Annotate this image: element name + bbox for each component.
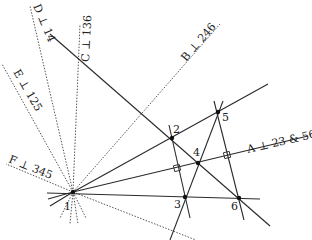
solid-line-1-3-6 xyxy=(47,193,260,199)
point-label-3: 3 xyxy=(174,198,181,211)
point-2 xyxy=(170,136,174,140)
line-label-B: B ⊥ 246 xyxy=(178,20,218,64)
point-1 xyxy=(71,190,75,194)
geometry-diagram: 123456 A ⊥ 23 & 56B ⊥ 246C ⊥ 136D ⊥ 14E … xyxy=(0,0,312,240)
line-label-F: F ⊥ 345 xyxy=(7,153,54,182)
line-label-E: E ⊥ 125 xyxy=(10,67,44,114)
line-label-C: C ⊥ 136 xyxy=(79,15,94,62)
line-label-D: D ⊥ 14 xyxy=(30,2,58,44)
point-4 xyxy=(196,161,200,165)
point-label-4: 4 xyxy=(193,146,200,159)
point-3 xyxy=(183,195,187,199)
point-label-2: 2 xyxy=(173,123,180,136)
point-label-6: 6 xyxy=(231,200,238,213)
point-label-1: 1 xyxy=(64,200,71,213)
point-label-5: 5 xyxy=(222,111,229,124)
diagram-svg: 123456 A ⊥ 23 & 56B ⊥ 246C ⊥ 136D ⊥ 14E … xyxy=(0,0,312,240)
dashed-stub-3 xyxy=(73,192,78,224)
solid-line-5-6 xyxy=(214,101,244,220)
point-5 xyxy=(216,110,220,114)
line-label-A: A ⊥ 23 & 56 xyxy=(245,127,312,156)
